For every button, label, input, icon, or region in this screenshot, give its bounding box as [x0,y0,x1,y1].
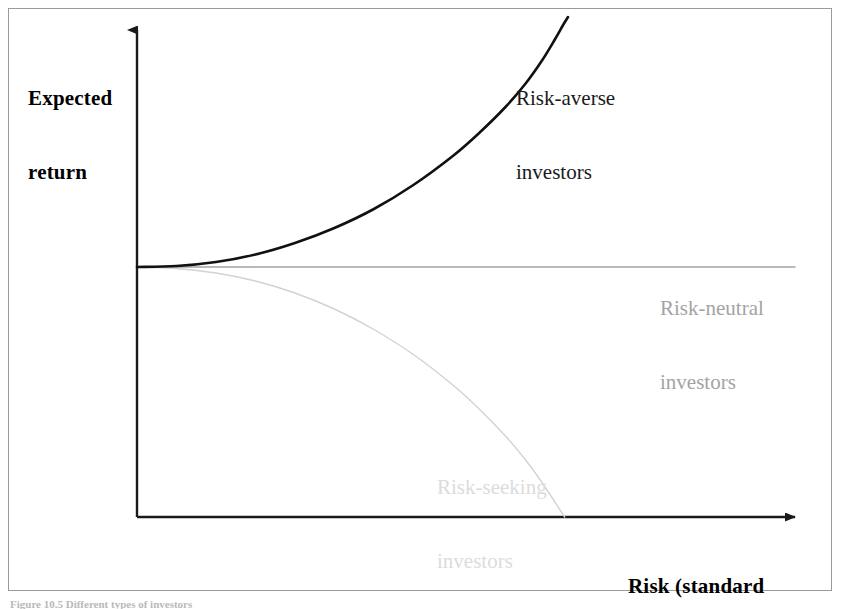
y-axis-label-line1: Expected [28,86,112,111]
risk-seeking-annotation: Risk-seeking investors [437,425,547,609]
risk-neutral-annotation: Risk-neutral investors [660,246,764,444]
figure-root: Expected return Risk (standard deviation… [0,0,846,609]
curve-risk-averse [137,17,568,267]
risk-neutral-annotation-line1: Risk-neutral [660,296,764,321]
risk-seeking-annotation-line1: Risk-seeking [437,475,547,500]
x-axis-label: Risk (standard deviation) [628,524,764,609]
y-axis-label-line2: return [28,160,112,185]
risk-averse-annotation-line1: Risk-averse [516,86,615,111]
risk-neutral-annotation-line2: investors [660,370,764,395]
y-axis-label: Expected return [28,36,112,234]
risk-seeking-annotation-line2: investors [437,549,547,574]
risk-averse-annotation-line2: investors [516,160,615,185]
risk-averse-annotation: Risk-averse investors [516,36,615,234]
figure-caption: Figure 10.5 Different types of investors [10,598,830,609]
x-axis-label-line1: Risk (standard [628,574,764,599]
